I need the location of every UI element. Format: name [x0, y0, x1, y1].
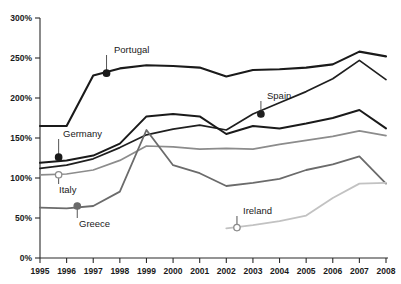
series-label-germany: Germany — [63, 128, 102, 139]
series-lines — [40, 52, 386, 229]
x-tick-label: 2005 — [297, 266, 316, 276]
line-chart: 0%50%100%150%200%250%300% 19951996199719… — [0, 0, 401, 284]
y-tick-label: 250% — [10, 53, 32, 63]
y-tick-label: 200% — [10, 93, 32, 103]
x-tick-label: 2004 — [270, 266, 289, 276]
x-tick-label: 2001 — [190, 266, 209, 276]
y-tick-label: 0% — [20, 253, 33, 263]
series-label-portugal: Portugal — [114, 44, 149, 55]
x-tick-label: 1995 — [31, 266, 50, 276]
series-line-portugal — [40, 52, 386, 126]
y-tick-label: 150% — [10, 133, 32, 143]
callout-marker-greece — [74, 203, 80, 209]
callout-marker-ireland — [234, 224, 240, 230]
x-tick-label: 1997 — [84, 266, 103, 276]
callout-marker-italy — [55, 172, 61, 178]
x-tick-label: 2002 — [217, 266, 236, 276]
y-axis: 0%50%100%150%200%250%300% — [10, 13, 40, 263]
x-tick-label: 2007 — [350, 266, 369, 276]
x-tick-label: 2006 — [323, 266, 342, 276]
x-tick-label: 1996 — [57, 266, 76, 276]
y-tick-label: 300% — [10, 13, 32, 23]
series-callouts: PortugalSpainGermanyItalyGreeceIreland — [55, 44, 291, 231]
series-label-greece: Greece — [79, 218, 110, 229]
x-tick-label: 2003 — [243, 266, 262, 276]
series-label-ireland: Ireland — [243, 205, 272, 216]
series-label-italy: Italy — [59, 184, 77, 195]
callout-marker-spain — [258, 111, 264, 117]
callout-marker-portugal — [103, 70, 109, 76]
x-axis: 1995199619971998199920002001200220032004… — [31, 258, 396, 276]
x-tick-label: 1999 — [137, 266, 156, 276]
series-label-spain: Spain — [267, 90, 291, 101]
x-tick-label: 1998 — [110, 266, 129, 276]
callout-marker-germany — [55, 154, 61, 160]
x-tick-label: 2000 — [164, 266, 183, 276]
chart-canvas: 0%50%100%150%200%250%300% 19951996199719… — [0, 0, 401, 284]
y-tick-label: 50% — [15, 213, 32, 223]
y-tick-label: 100% — [10, 173, 32, 183]
x-tick-label: 2008 — [377, 266, 396, 276]
